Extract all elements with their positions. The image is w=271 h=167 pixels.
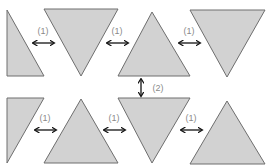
triangle-up (118, 12, 190, 76)
triangle-up (190, 101, 265, 164)
step-label: (1) (38, 26, 49, 36)
triangle-up (44, 99, 118, 163)
double-arrow-horizontal: (1) (181, 113, 202, 130)
step-label: (1) (112, 26, 123, 36)
step-label: (1) (109, 113, 120, 123)
triangle-down (44, 9, 118, 76)
triangle-down (190, 10, 265, 77)
triangle-down (118, 98, 190, 163)
double-arrow-vertical: (2) (141, 79, 164, 96)
double-arrow-horizontal: (1) (104, 113, 125, 130)
step-label: (2) (153, 83, 164, 93)
double-arrow-horizontal: (1) (33, 26, 54, 43)
double-arrow-horizontal: (1) (179, 26, 200, 43)
step-label: (1) (186, 113, 197, 123)
double-arrow-horizontal: (1) (35, 113, 56, 130)
step-label: (1) (40, 113, 51, 123)
double-arrow-horizontal: (1) (107, 26, 128, 43)
vertical-arrows-group: (2) (141, 79, 164, 96)
step-label: (1) (184, 26, 195, 36)
triangle-tiling-diagram: (1)(1)(1)(1)(1)(1) (2) (0, 0, 271, 167)
